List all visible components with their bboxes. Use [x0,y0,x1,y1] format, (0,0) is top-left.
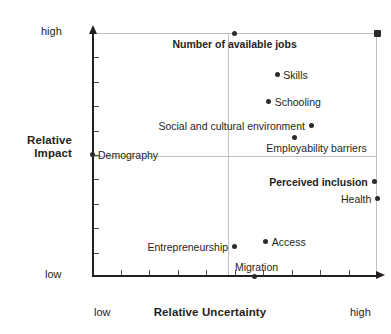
x-axis-title: Relative Uncertainty [130,306,290,318]
x-axis-tick-low: low [94,306,111,318]
x-axis-arrow-icon [376,271,385,279]
x-axis-tick-mark [320,270,321,275]
y-axis-tick-mark [94,253,99,254]
x-axis-line [92,275,377,277]
data-point-label: Entrepreneurship [148,241,229,253]
data-point-label: Access [272,236,306,248]
scatter-chart-figure: Relative Impact Relative Uncertainty hig… [0,0,391,334]
data-point-label: Perceived inclusion [269,176,368,188]
data-point[interactable] [263,239,268,244]
plot-area: Number of available jobsSkillsSchoolingS… [92,33,377,277]
data-point[interactable] [375,196,380,201]
data-point[interactable] [374,30,381,37]
x-axis-tick-mark [149,270,150,275]
data-point[interactable] [309,123,314,128]
x-axis-tick-mark [178,270,179,275]
data-point[interactable] [275,72,280,77]
y-axis-title-line2: Impact [34,147,72,159]
data-point[interactable] [232,31,237,36]
data-point[interactable] [292,135,297,140]
x-axis-tick-high: high [350,306,371,318]
y-axis-tick-mark [94,204,99,205]
data-point[interactable] [372,179,377,184]
data-point[interactable] [232,244,237,249]
y-axis-tick-mark [94,228,99,229]
data-point[interactable] [252,274,257,279]
y-axis-tick-mark [94,57,99,58]
x-axis-tick-mark [349,270,350,275]
data-point-label: Demography [98,149,158,161]
data-point-label: Skills [283,69,308,81]
plot-frame-right [376,33,377,277]
y-axis-tick-mark [94,106,99,107]
y-axis-tick-low: low [45,268,62,280]
data-point-label: Schooling [275,96,321,108]
y-axis-tick-mark [94,179,99,180]
data-point-label: Health [341,193,371,205]
y-axis-tick-mark [94,82,99,83]
data-point-label: Migration [235,261,278,273]
y-axis-tick-high: high [41,25,62,37]
x-axis-tick-mark [292,270,293,275]
y-axis-tick-mark [94,131,99,132]
x-axis-tick-mark [121,270,122,275]
data-point[interactable] [266,99,271,104]
x-axis-tick-mark [206,270,207,275]
data-point-label: Social and cultural environment [158,120,305,132]
data-point-label: Number of available jobs [173,38,297,50]
y-axis-title: Relative Impact [2,134,72,160]
quadrant-midline-vertical [228,33,229,277]
y-axis-title-line1: Relative [27,134,72,146]
data-point[interactable] [90,152,95,157]
data-point-label: Employability barriers [266,142,366,154]
y-axis-arrow-icon [89,25,97,34]
